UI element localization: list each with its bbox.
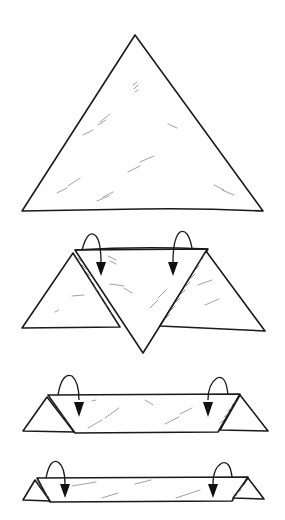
step-4-narrow-band <box>23 461 264 502</box>
folding-diagram <box>0 0 285 520</box>
step-3-band <box>23 375 268 433</box>
step-2-folded-triangle <box>22 231 265 353</box>
step-1-triangle <box>22 35 263 211</box>
